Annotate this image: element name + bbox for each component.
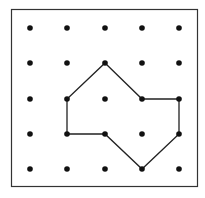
grid-dot (139, 166, 145, 172)
grid-dot (176, 131, 182, 137)
grid-dot (102, 96, 108, 102)
grid-dot (102, 25, 108, 31)
grid-dot (27, 96, 33, 102)
grid-dot (139, 60, 145, 66)
grid-dot (64, 96, 70, 102)
grid-dot (27, 25, 33, 31)
grid-dot (64, 60, 70, 66)
grid-dot (139, 131, 145, 137)
grid-dot (176, 166, 182, 172)
grid-dot (64, 166, 70, 172)
grid-dot (176, 25, 182, 31)
grid-dot (64, 131, 70, 137)
geoboard-diagram (0, 0, 205, 198)
grid-dot (139, 96, 145, 102)
grid-dot (102, 166, 108, 172)
grid-dot (64, 25, 70, 31)
grid-dot (176, 60, 182, 66)
polygon-shape (67, 63, 179, 169)
grid-dot (102, 131, 108, 137)
grid-dot (102, 60, 108, 66)
grid-dot (27, 60, 33, 66)
grid-dot (176, 96, 182, 102)
grid-dot (27, 166, 33, 172)
grid-dot (139, 25, 145, 31)
grid-dot (27, 131, 33, 137)
